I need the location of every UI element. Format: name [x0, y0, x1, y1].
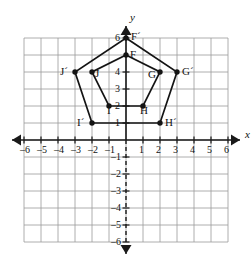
point-label-G: G [148, 69, 156, 80]
vertex-point [157, 69, 162, 74]
point-label-H: H [140, 105, 148, 116]
x-tick-label: –5 [37, 145, 47, 155]
y-axis-label: y [130, 12, 135, 23]
vertex-point [123, 52, 128, 57]
y-tick-label: 1 [115, 118, 120, 128]
x-tick-label: 6 [224, 145, 229, 155]
vertex-point [157, 120, 162, 125]
x-tick-label: 5 [207, 145, 212, 155]
x-tick-label: 1 [139, 145, 144, 155]
y-tick-label: –2 [111, 169, 121, 179]
point-label-I: I [107, 105, 111, 116]
y-tick-label: –3 [111, 186, 121, 196]
vertex-point [123, 35, 128, 40]
point-label-Iprime: I´ [77, 117, 84, 128]
y-tick-label: 4 [115, 67, 120, 77]
vertex-point [89, 69, 94, 74]
y-tick-label: –5 [111, 220, 121, 230]
y-tick-label: –4 [111, 203, 121, 213]
x-tick-label: –3 [71, 145, 81, 155]
x-tick-label: 4 [190, 145, 195, 155]
y-tick-label: 6 [115, 33, 120, 43]
x-tick-label: 3 [173, 145, 178, 155]
coordinate-plane-figure [0, 0, 251, 265]
y-tick-label: 3 [115, 84, 120, 94]
vertex-point [72, 69, 77, 74]
point-label-F: F [130, 49, 136, 60]
point-label-Fprime: F´ [131, 31, 141, 42]
y-tick-label: –1 [111, 152, 121, 162]
point-label-J: J [95, 68, 99, 79]
point-label-Hprime: H´ [165, 117, 177, 128]
point-label-Jprime: J´ [60, 66, 68, 77]
vertex-point [174, 69, 179, 74]
x-tick-label: 2 [156, 145, 161, 155]
y-tick-label: –6 [111, 237, 121, 247]
x-tick-label: –6 [20, 145, 30, 155]
vertex-point [89, 120, 94, 125]
x-tick-label: –2 [88, 145, 98, 155]
point-label-Gprime: G´ [182, 66, 194, 77]
x-tick-label: –4 [54, 145, 64, 155]
y-tick-label: 2 [115, 101, 120, 111]
x-axis-label: x [245, 129, 250, 140]
